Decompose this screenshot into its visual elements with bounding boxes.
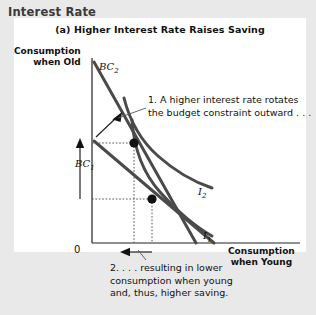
bc1-base: BC bbox=[75, 158, 90, 169]
annotation-1: 1. A higher interest rate rotates the bu… bbox=[148, 94, 311, 119]
annotation-1-line1: 1. A higher interest rate rotates bbox=[148, 94, 311, 107]
budget-constraint-1-label: BC1 bbox=[75, 158, 95, 172]
indifference-curve-1-label: I1 bbox=[203, 230, 211, 244]
new-optimum-point bbox=[129, 138, 138, 147]
annotation-1-line2: the budget constraint outward . . . bbox=[148, 107, 311, 120]
i2-subscript: 2 bbox=[202, 192, 206, 200]
annotation-2: 2. . . . resulting in lower consumption … bbox=[110, 262, 233, 300]
y-axis-label-line2: when Old bbox=[14, 57, 81, 68]
budget-rotation-arrow bbox=[96, 118, 116, 137]
budget-constraint-1-line bbox=[94, 141, 214, 243]
consumption-decrease-arrowhead bbox=[120, 248, 130, 256]
annotation-2-line1: 2. . . . resulting in lower bbox=[110, 262, 233, 275]
x-axis-label: Consumption when Young bbox=[228, 246, 295, 268]
bc2-base: BC bbox=[99, 61, 114, 72]
x-axis-label-line2: when Young bbox=[228, 257, 295, 268]
annotation-2-line2: consumption when young bbox=[110, 275, 233, 288]
y-axis-label: Consumption when Old bbox=[14, 46, 81, 68]
annotation-2-line3: and, thus, higher saving. bbox=[110, 287, 233, 300]
figure-root: Interest Rate (a) Higher Interest Rate R… bbox=[0, 0, 316, 315]
budget-constraint-2-label: BC2 bbox=[99, 61, 119, 75]
i1-subscript: 1 bbox=[207, 236, 211, 244]
y-axis-label-line1: Consumption bbox=[14, 46, 81, 57]
x-axis-label-line1: Consumption bbox=[228, 246, 295, 257]
origin-label: 0 bbox=[74, 244, 80, 255]
bc2-subscript: 2 bbox=[114, 67, 118, 75]
initial-optimum-point bbox=[147, 194, 156, 203]
indifference-curve-2-label: I2 bbox=[198, 186, 206, 200]
saving-increase-arrowhead bbox=[76, 138, 84, 148]
bc1-subscript: 1 bbox=[90, 164, 94, 172]
indifference-curve-1 bbox=[132, 120, 212, 236]
